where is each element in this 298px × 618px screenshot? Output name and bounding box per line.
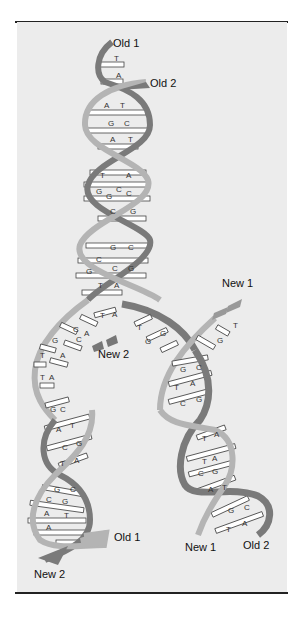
- svg-text:C: C: [196, 363, 202, 372]
- svg-text:G: G: [96, 187, 102, 196]
- svg-text:A: A: [116, 71, 122, 80]
- svg-text:A: A: [112, 310, 118, 319]
- svg-text:G: G: [130, 207, 136, 216]
- svg-text:G: G: [110, 243, 116, 252]
- svg-text:G: G: [86, 267, 92, 276]
- label-new1-fork: New 1: [222, 277, 253, 289]
- label-new2-bottom: New 2: [34, 568, 65, 580]
- svg-text:T: T: [40, 373, 45, 382]
- svg-text:A: A: [60, 351, 66, 360]
- svg-text:G: G: [180, 365, 186, 374]
- label-old1-bottom: Old 1: [114, 531, 140, 543]
- svg-text:G: G: [212, 467, 218, 476]
- svg-text:C: C: [62, 443, 68, 452]
- svg-text:C: C: [110, 207, 116, 216]
- svg-text:C: C: [73, 325, 79, 334]
- left-daughter-helix: [28, 397, 106, 565]
- svg-text:G: G: [62, 497, 68, 506]
- parent-helix: [76, 42, 160, 300]
- svg-text:T: T: [222, 483, 227, 492]
- svg-text:A: A: [214, 430, 220, 439]
- svg-text:G: G: [50, 405, 56, 414]
- svg-text:C: C: [198, 469, 204, 478]
- svg-text:T: T: [120, 101, 125, 110]
- svg-text:A: A: [49, 373, 55, 382]
- svg-text:C: C: [244, 503, 250, 512]
- svg-text:C: C: [124, 119, 130, 128]
- right-daughter-helix: [160, 350, 270, 535]
- svg-text:T: T: [70, 421, 75, 430]
- svg-text:C: C: [70, 485, 76, 494]
- svg-text:A: A: [44, 509, 50, 518]
- svg-text:G: G: [108, 119, 114, 128]
- svg-text:T: T: [100, 171, 105, 180]
- svg-text:T: T: [64, 511, 69, 520]
- svg-text:G: G: [196, 395, 202, 404]
- svg-text:A: A: [242, 519, 248, 528]
- svg-text:T: T: [100, 311, 105, 320]
- label-new1-bottom: New 1: [185, 541, 216, 553]
- svg-text:C: C: [128, 243, 134, 252]
- svg-text:C: C: [126, 189, 132, 198]
- dna-replication-diagram: T A A T G C A T T A G C G C C G G C C G …: [0, 0, 298, 618]
- svg-text:G: G: [128, 264, 134, 273]
- svg-text:G: G: [52, 336, 58, 345]
- svg-text:A: A: [114, 281, 120, 290]
- svg-text:T: T: [128, 135, 133, 144]
- svg-text:C: C: [116, 185, 122, 194]
- svg-text:C: C: [96, 255, 102, 264]
- svg-text:T: T: [98, 281, 103, 290]
- svg-text:A: A: [212, 454, 218, 463]
- svg-text:G: G: [228, 506, 234, 515]
- svg-text:T: T: [114, 54, 119, 63]
- svg-text:T: T: [226, 525, 231, 534]
- svg-text:C: C: [60, 405, 66, 414]
- svg-text:A: A: [46, 523, 52, 532]
- svg-text:G: G: [106, 192, 112, 201]
- svg-text:T: T: [233, 321, 238, 330]
- svg-text:C: C: [112, 264, 118, 273]
- svg-text:C: C: [76, 335, 82, 344]
- svg-text:G: G: [217, 336, 223, 345]
- svg-text:A: A: [56, 425, 62, 434]
- svg-text:T: T: [137, 323, 142, 332]
- svg-text:A: A: [126, 171, 132, 180]
- svg-text:A: A: [104, 101, 110, 110]
- svg-text:C: C: [46, 495, 52, 504]
- svg-text:T: T: [60, 459, 65, 468]
- svg-text:T: T: [202, 434, 207, 443]
- svg-text:A: A: [208, 485, 214, 494]
- label-new2-fork: New 2: [98, 348, 129, 360]
- svg-text:A: A: [110, 135, 116, 144]
- svg-text:T: T: [202, 457, 207, 466]
- label-old2-bottom: Old 2: [243, 539, 269, 551]
- svg-text:A: A: [190, 379, 196, 388]
- label-old1-top: Old 1: [113, 37, 139, 49]
- svg-text:G: G: [145, 337, 151, 346]
- label-old2-top: Old 2: [150, 77, 176, 89]
- svg-text:C: C: [180, 399, 186, 408]
- svg-text:T: T: [40, 351, 45, 360]
- svg-text:T: T: [174, 383, 179, 392]
- svg-text:G: G: [54, 485, 60, 494]
- svg-text:A: A: [74, 456, 80, 465]
- svg-text:G: G: [76, 439, 82, 448]
- svg-text:G: G: [160, 329, 166, 338]
- svg-text:A: A: [84, 329, 90, 338]
